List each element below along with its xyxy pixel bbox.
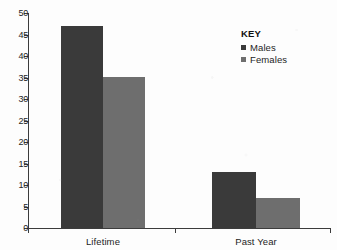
- legend-item-females: Females: [241, 53, 287, 65]
- y-axis-line: [28, 13, 29, 229]
- x-category-label-past-year: Past Year: [206, 236, 306, 247]
- x-tick-mark: [28, 228, 29, 233]
- y-tick-label: 35: [8, 74, 28, 83]
- y-tick-label-row: 15: [0, 160, 28, 169]
- bar-lifetime-females: [103, 77, 145, 228]
- x-category-label-lifetime: Lifetime: [53, 236, 153, 247]
- y-tick-label: 10: [8, 181, 28, 190]
- x-tick-mark: [175, 228, 176, 233]
- y-tick-label-row: 50: [0, 9, 28, 18]
- y-tick-label: 50: [8, 9, 28, 18]
- legend-swatch-females-icon: [241, 57, 246, 62]
- y-tick-label: 30: [8, 95, 28, 104]
- y-tick-label-row: 10: [0, 181, 28, 190]
- y-tick-label: 20: [8, 138, 28, 147]
- legend-label-males: Males: [250, 42, 276, 53]
- y-tick-label-row: 40: [0, 52, 28, 61]
- y-tick-label: 40: [8, 52, 28, 61]
- legend: KEY Males Females: [241, 28, 287, 65]
- legend-item-males: Males: [241, 41, 287, 53]
- legend-label-females: Females: [250, 54, 287, 65]
- y-tick-label-row: 30: [0, 95, 28, 104]
- legend-title: KEY: [241, 28, 287, 39]
- y-tick-label: 5: [8, 203, 28, 212]
- bar-lifetime-males: [61, 26, 103, 228]
- y-tick-label-row: 5: [0, 203, 28, 212]
- x-tick-mark: [330, 228, 331, 233]
- legend-swatch-males-icon: [241, 45, 246, 50]
- bar-past-year-females: [256, 198, 300, 228]
- y-tick-label: 0: [8, 224, 28, 233]
- y-tick-label: 45: [8, 31, 28, 40]
- bar-chart: 05101520253035404550 LifetimePast Year K…: [0, 0, 337, 250]
- y-tick-label-row: 20: [0, 138, 28, 147]
- bar-past-year-males: [212, 172, 256, 228]
- y-tick-label-row: 35: [0, 74, 28, 83]
- y-tick-label-row: 0: [0, 224, 28, 233]
- y-tick-label-row: 25: [0, 117, 28, 126]
- y-tick-label-row: 45: [0, 31, 28, 40]
- x-axis-line: [28, 228, 330, 229]
- y-tick-label: 15: [8, 160, 28, 169]
- y-tick-label: 25: [8, 117, 28, 126]
